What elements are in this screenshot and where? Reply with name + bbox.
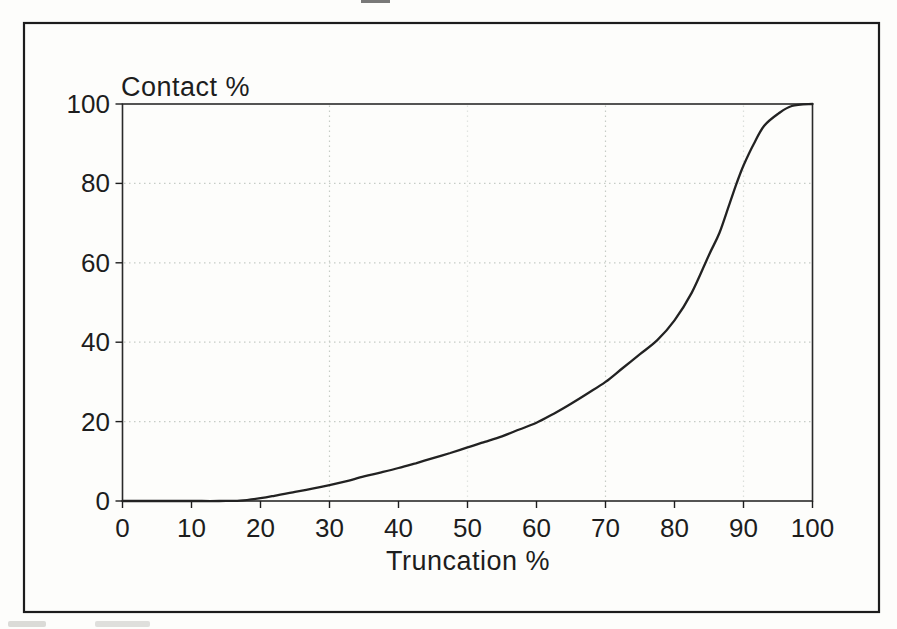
y-tick-label-80: 80 xyxy=(81,168,110,198)
page-top-artifact xyxy=(361,0,390,3)
y-tick-label-100: 100 xyxy=(67,89,110,119)
x-tick-label-50: 50 xyxy=(453,513,482,543)
x-tick-label-40: 40 xyxy=(384,513,413,543)
x-tick-label-30: 30 xyxy=(315,513,344,543)
cutoff-caption-remnant xyxy=(8,621,46,627)
scanned-figure-page: 0102030405060708090100 020406080100 Cont… xyxy=(0,0,897,629)
cutoff-caption-remnant xyxy=(95,621,150,627)
x-tick-label-90: 90 xyxy=(729,513,758,543)
y-axis-title: Contact % xyxy=(121,72,250,102)
contact-truncation-chart: 0102030405060708090100 020406080100 Cont… xyxy=(0,0,897,629)
x-tick-label-20: 20 xyxy=(246,513,275,543)
x-tick-label-10: 10 xyxy=(177,513,206,543)
y-tick-label-20: 20 xyxy=(81,407,110,437)
x-tick-label-60: 60 xyxy=(522,513,551,543)
y-tick-label-0: 0 xyxy=(96,486,110,516)
x-axis-title: Truncation % xyxy=(386,546,550,576)
x-tick-label-80: 80 xyxy=(660,513,689,543)
x-tick-label-70: 70 xyxy=(591,513,620,543)
y-tick-label-60: 60 xyxy=(81,248,110,278)
y-tick-label-40: 40 xyxy=(81,327,110,357)
x-tick-label-100: 100 xyxy=(791,513,834,543)
x-tick-label-0: 0 xyxy=(115,513,129,543)
